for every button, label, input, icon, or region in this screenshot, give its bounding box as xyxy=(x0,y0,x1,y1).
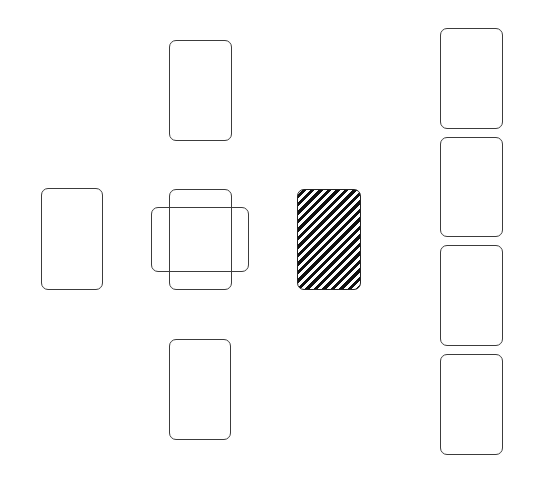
card-slot-north[interactable] xyxy=(169,40,232,141)
stock-pile-card-back[interactable] xyxy=(297,189,361,290)
card-slot-west[interactable] xyxy=(41,188,103,290)
card-slot-column-1[interactable] xyxy=(440,28,503,129)
card-slot-column-3[interactable] xyxy=(440,245,503,346)
card-slot-column-2[interactable] xyxy=(440,137,503,237)
card-slot-column-4[interactable] xyxy=(440,354,503,455)
card-slot-center-horizontal[interactable] xyxy=(151,207,249,272)
card-slot-south[interactable] xyxy=(169,339,231,440)
game-board xyxy=(0,0,558,482)
